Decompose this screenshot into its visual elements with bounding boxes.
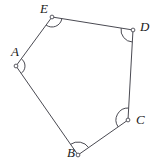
vertex-label-b: B [67, 145, 75, 160]
geometry-figure: ABCDE [0, 0, 155, 167]
polygon-edge-ab [16, 66, 78, 155]
vertex-label-c: C [136, 112, 145, 127]
angle-arc-d [121, 28, 132, 42]
polygon-edge-bc [78, 120, 128, 155]
vertex-marker-c [126, 118, 130, 122]
vertex-marker-e [50, 15, 54, 19]
vertex-marker-d [131, 28, 135, 32]
polygon-edges [16, 17, 133, 155]
polygon-diagram: ABCDE [0, 0, 155, 167]
polygon-edge-cd [128, 30, 133, 120]
vertex-label-a: A [10, 44, 19, 59]
angle-arc-a [21, 59, 25, 74]
vertex-labels: ABCDE [10, 1, 150, 160]
vertex-markers [14, 15, 135, 157]
vertex-marker-a [14, 64, 18, 68]
vertex-marker-b [76, 153, 80, 157]
vertex-label-d: D [139, 19, 150, 34]
vertex-label-e: E [39, 1, 48, 16]
angle-arc-e [46, 19, 62, 27]
polygon-edge-de [52, 17, 133, 30]
